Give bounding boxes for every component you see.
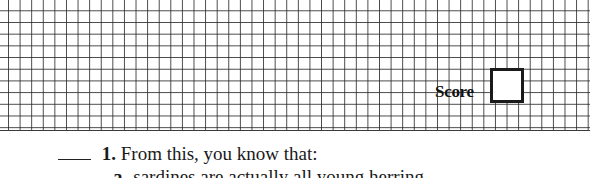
graph-paper-grid xyxy=(0,0,590,131)
question-1: 1. From this, you know that: xyxy=(58,143,318,165)
question-text: From this, you know that: xyxy=(121,143,318,164)
question-number: 1. xyxy=(102,143,116,164)
answer-blank[interactable] xyxy=(58,158,91,160)
option-letter: a. xyxy=(113,166,127,178)
option-a: a.sardines are actually all young herrin… xyxy=(113,166,429,178)
score-label: Score xyxy=(435,82,474,102)
score-box[interactable] xyxy=(490,68,524,103)
option-text: sardines are actually all young herring. xyxy=(133,166,428,178)
